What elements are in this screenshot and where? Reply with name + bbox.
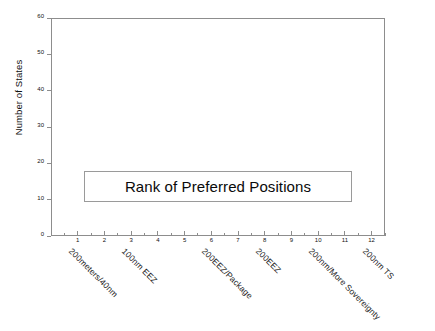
- x-category-label: 200nm TS: [361, 246, 396, 281]
- x-tick-mark: [77, 231, 78, 236]
- plot-area: [51, 18, 385, 236]
- x-minor-tick-mark: [358, 233, 359, 236]
- y-tick-label: 20: [37, 158, 44, 164]
- x-minor-tick-mark: [144, 233, 145, 236]
- x-tick-label: 4: [146, 237, 170, 243]
- x-tick-mark: [264, 231, 265, 236]
- x-minor-tick-mark: [224, 233, 225, 236]
- x-tick-label: 5: [173, 237, 197, 243]
- x-tick-label: 11: [333, 237, 357, 243]
- x-tick-mark: [211, 231, 212, 236]
- x-minor-tick-mark: [251, 233, 252, 236]
- y-axis-title: Number of States: [13, 28, 24, 168]
- x-tick-label: 6: [199, 237, 223, 243]
- x-tick-label: 9: [279, 237, 303, 243]
- y-tick-label: 50: [37, 49, 44, 55]
- x-tick-label: 3: [119, 237, 143, 243]
- x-minor-tick-mark: [385, 233, 386, 236]
- y-tick-label: 60: [37, 13, 44, 19]
- x-minor-tick-mark: [64, 233, 65, 236]
- x-minor-tick-mark: [331, 233, 332, 236]
- x-category-label: 200EEZ/Package: [200, 246, 255, 301]
- x-tick-mark: [344, 231, 345, 236]
- annotation-box: Rank of Preferred Positions: [84, 171, 352, 202]
- x-tick-mark: [371, 231, 372, 236]
- y-tick-label: 10: [37, 195, 44, 201]
- x-tick-mark: [238, 231, 239, 236]
- x-minor-tick-mark: [278, 233, 279, 236]
- y-tick-label: 0: [41, 231, 44, 237]
- y-tick-label: 30: [37, 122, 44, 128]
- x-tick-label: 12: [360, 237, 384, 243]
- x-tick-mark: [184, 231, 185, 236]
- x-minor-tick-mark: [197, 233, 198, 236]
- x-minor-tick-mark: [117, 233, 118, 236]
- annotation-text: Rank of Preferred Positions: [125, 178, 311, 195]
- x-tick-label: 10: [306, 237, 330, 243]
- x-tick-label: 2: [92, 237, 116, 243]
- x-tick-mark: [318, 231, 319, 236]
- x-tick-label: 8: [253, 237, 277, 243]
- x-category-label: 100nm EEZ: [120, 246, 159, 285]
- x-category-label: 200EEZ: [254, 246, 283, 275]
- x-minor-tick-mark: [304, 233, 305, 236]
- x-minor-tick-mark: [91, 233, 92, 236]
- y-tick-label: 40: [37, 86, 44, 92]
- x-tick-mark: [104, 231, 105, 236]
- x-minor-tick-mark: [171, 233, 172, 236]
- x-tick-mark: [131, 231, 132, 236]
- x-tick-mark: [291, 231, 292, 236]
- x-tick-label: 7: [226, 237, 250, 243]
- chart-page: Number of States 0102030405060 123456789…: [0, 0, 435, 331]
- x-tick-label: 1: [66, 237, 90, 243]
- x-category-label: 200meters/40nm: [67, 246, 120, 299]
- x-tick-mark: [157, 231, 158, 236]
